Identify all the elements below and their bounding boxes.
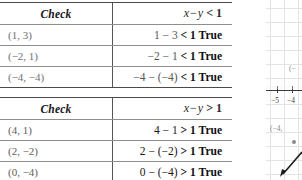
cell-point: (0, −4) <box>0 162 112 180</box>
header-variable-y: y <box>198 6 203 20</box>
substitution-expression: 0 − (−4) > 1 True <box>140 166 222 178</box>
grid-line-horizontal <box>266 8 302 9</box>
x-axis-tick-label: −5 <box>271 96 279 105</box>
column-divider <box>112 141 113 161</box>
grid-line-horizontal <box>266 22 302 23</box>
header-label-expression: x−y > 1 <box>184 101 222 116</box>
grid-line-horizontal <box>266 146 302 147</box>
grid-line-horizontal <box>266 64 302 65</box>
substitution-value: 2 − (−2) <box>140 145 178 157</box>
graph-plotted-point <box>292 140 296 144</box>
relation-value: < 1 <box>181 71 196 83</box>
cell-substitution: −2 − 1 < 1 True <box>112 46 232 66</box>
point-value: (−4, −4) <box>0 71 112 83</box>
table-row: (−4, −4) −4 − (−4) < 1 True <box>0 67 232 87</box>
table-header-row: Check x−y > 1 <box>0 98 232 119</box>
substitution-value: −4 − (−4) <box>133 71 177 83</box>
cell-substitution: 4 − 1 > 1 True <box>112 120 232 140</box>
table-row: (0, −4) 0 − (−4) > 1 True <box>0 162 232 180</box>
relation-value: < 1 <box>181 29 196 41</box>
header-cell-check: Check <box>0 3 112 24</box>
cell-point: (2, −2) <box>0 141 112 161</box>
substitution-expression: −2 − 1 < 1 True <box>147 50 222 62</box>
result-value: True <box>199 50 222 62</box>
table-row: (4, 1) 4 − 1 > 1 True <box>0 120 232 140</box>
relation-value: > 1 <box>181 124 196 136</box>
cell-point: (4, 1) <box>0 120 112 140</box>
grid-line-horizontal <box>266 78 302 79</box>
substitution-value: 4 − 1 <box>154 124 178 136</box>
textbook-page: Check x−y < 1 (1, 3) 1 − 3 < 1 True (−2,… <box>0 0 302 180</box>
header-label-check: Check <box>40 103 71 115</box>
header-cell-expression: x−y > 1 <box>112 98 232 119</box>
substitution-value: 1 − 3 <box>154 29 178 41</box>
column-divider <box>112 120 113 140</box>
table-row: (−2, 1) −2 − 1 < 1 True <box>0 46 232 66</box>
cell-point: (1, 3) <box>0 25 112 45</box>
header-variable-y: y <box>198 101 203 115</box>
check-table-less-than: Check x−y < 1 (1, 3) 1 − 3 < 1 True (−2,… <box>0 2 232 88</box>
grid-line-horizontal <box>266 118 302 119</box>
header-minus-sign: − <box>189 101 198 115</box>
substitution-value: −2 − 1 <box>147 50 177 62</box>
column-divider <box>112 98 113 119</box>
column-divider <box>112 25 113 45</box>
header-minus-sign: − <box>189 6 198 20</box>
x-axis <box>266 90 302 91</box>
point-value: (0, −4) <box>0 166 112 178</box>
result-value: True <box>199 71 222 83</box>
header-cell-expression: x−y < 1 <box>112 3 232 24</box>
grid-line-horizontal <box>266 36 302 37</box>
table-bottom-rule <box>0 87 232 88</box>
relation-value: > 1 <box>181 145 196 157</box>
substitution-expression: 2 − (−2) > 1 True <box>140 145 222 157</box>
relation-value: < 1 <box>181 50 196 62</box>
cell-point: (−4, −4) <box>0 67 112 87</box>
substitution-expression: 4 − 1 > 1 True <box>154 124 222 136</box>
scan-artifact <box>266 86 302 89</box>
point-value: (−2, 1) <box>0 50 112 62</box>
grid-line-horizontal <box>266 50 302 51</box>
substitution-expression: −4 − (−4) < 1 True <box>133 71 222 83</box>
result-value: True <box>199 145 222 157</box>
column-divider <box>112 46 113 66</box>
coordinate-graph-fragment: −5 −4 (− (−4, <box>266 0 302 180</box>
cell-substitution: 2 − (−2) > 1 True <box>112 141 232 161</box>
relation-value: > 1 <box>181 166 196 178</box>
x-axis-tick-label: −4 <box>287 96 295 105</box>
result-value: True <box>199 29 222 41</box>
header-relation: < 1 <box>206 6 222 20</box>
result-value: True <box>199 166 222 178</box>
table-row: (2, −2) 2 − (−2) > 1 True <box>0 141 232 161</box>
point-value: (2, −2) <box>0 145 112 157</box>
header-label-check: Check <box>40 8 71 20</box>
cell-substitution: −4 − (−4) < 1 True <box>112 67 232 87</box>
column-divider <box>112 67 113 87</box>
graph-point-label-lower: (−4, <box>270 124 282 133</box>
column-divider <box>112 3 113 24</box>
header-label-expression: x−y < 1 <box>184 6 222 21</box>
result-value: True <box>199 124 222 136</box>
cell-substitution: 0 − (−4) > 1 True <box>112 162 232 180</box>
point-value: (1, 3) <box>0 29 112 41</box>
check-table-greater-than: Check x−y > 1 (4, 1) 4 − 1 > 1 True (2, … <box>0 97 232 180</box>
graph-point-label-upper: (− <box>289 64 296 73</box>
table-row: (1, 3) 1 − 3 < 1 True <box>0 25 232 45</box>
cell-substitution: 1 − 3 < 1 True <box>112 25 232 45</box>
header-relation: > 1 <box>206 101 222 115</box>
substitution-value: 0 − (−4) <box>140 166 178 178</box>
header-cell-check: Check <box>0 98 112 119</box>
substitution-expression: 1 − 3 < 1 True <box>154 29 222 41</box>
column-divider <box>112 162 113 180</box>
table-header-row: Check x−y < 1 <box>0 3 232 24</box>
graph-arrow-icon <box>278 150 302 178</box>
cell-point: (−2, 1) <box>0 46 112 66</box>
point-value: (4, 1) <box>0 124 112 136</box>
